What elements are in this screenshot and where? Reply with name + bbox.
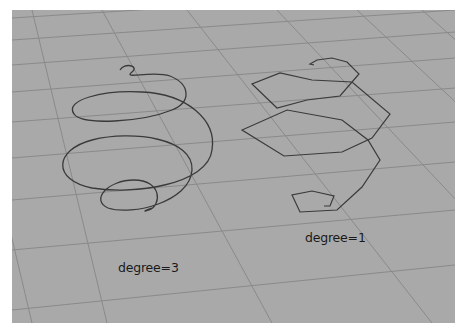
curves-layer <box>63 58 390 212</box>
grid-line-h-2 <box>12 32 455 65</box>
grid-line-v-5 <box>422 10 455 323</box>
grid-line-v-6 <box>12 70 32 323</box>
grid-line-h-5 <box>12 122 455 158</box>
grid-line-v-1 <box>102 10 272 323</box>
grid-line-h-3 <box>12 58 455 92</box>
grid-line-h-6 <box>12 162 455 200</box>
grid-line-v-0 <box>32 10 107 323</box>
grid-line-v-3 <box>277 10 455 323</box>
ground-grid <box>12 10 455 323</box>
grid-line-h-1 <box>12 10 455 40</box>
degree-3-spiral-curve[interactable] <box>63 66 213 212</box>
degree-3-label: degree=3 <box>118 260 179 275</box>
grid-line-v-2 <box>187 10 432 323</box>
3d-viewport[interactable] <box>12 10 455 323</box>
grid-line-h-7 <box>12 210 455 250</box>
scene-canvas <box>12 10 455 323</box>
degree-1-spiral-polyline[interactable] <box>242 58 390 212</box>
degree-1-label: degree=1 <box>305 230 366 245</box>
grid-line-h-8 <box>12 265 455 310</box>
